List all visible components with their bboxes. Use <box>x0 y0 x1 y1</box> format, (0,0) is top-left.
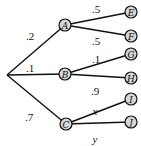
edge-root-b <box>7 74 65 75</box>
node-label: C <box>63 120 70 130</box>
node-label: B <box>61 70 69 80</box>
node-label: A <box>61 21 69 31</box>
node-g: G <box>125 48 137 60</box>
node-label: I <box>128 95 133 105</box>
node-f: F <box>125 30 137 42</box>
probability-label-i: x <box>92 105 98 117</box>
node-h: H <box>125 72 137 84</box>
edge-c-j <box>66 122 131 124</box>
node-i: I <box>125 93 137 105</box>
edge-b-h <box>65 74 131 78</box>
probability-label-h: .9 <box>91 85 100 97</box>
probability-label-f: .5 <box>92 35 101 47</box>
edge-c-i <box>66 99 131 124</box>
probability-label-g: .1 <box>92 53 100 65</box>
node-label: E <box>127 8 135 18</box>
probability-label-a: .2 <box>26 30 34 42</box>
node-label: H <box>126 74 135 84</box>
node-b: B <box>59 68 71 80</box>
probability-label-j: y <box>92 133 98 145</box>
node-a: A <box>59 19 71 31</box>
node-e: E <box>125 6 137 18</box>
edge-root-a <box>7 25 65 75</box>
probability-tree: .2.1.7.5.5.1.9xy ABCEFGHIJ <box>0 0 141 146</box>
probability-label-e: .5 <box>92 3 101 15</box>
node-c: C <box>60 118 72 130</box>
probability-label-c: .7 <box>25 111 34 123</box>
edge-root-c <box>7 75 66 124</box>
probability-label-b: .1 <box>26 62 34 74</box>
node-j: J <box>125 116 137 128</box>
node-label: G <box>127 50 134 60</box>
node-label: F <box>127 32 135 42</box>
